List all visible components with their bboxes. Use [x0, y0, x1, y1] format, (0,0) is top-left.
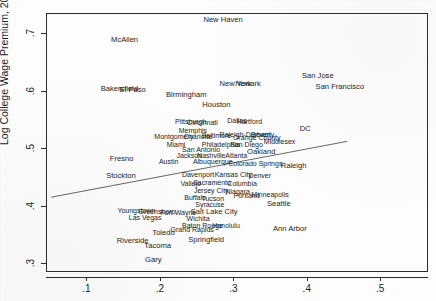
data-point-label: San Jose [302, 73, 334, 81]
x-tick-label: .2 [156, 283, 164, 294]
y-tick-label: .7 [25, 25, 36, 41]
data-point-label: Orange County [233, 134, 280, 141]
data-point-label: Austin [159, 158, 178, 165]
data-point-label: Springfield [188, 236, 224, 244]
data-point-label: Oakland [247, 148, 275, 156]
y-tick-label: .5 [25, 140, 36, 156]
data-point-label: Sacramento [193, 179, 231, 186]
y-tick-label: .6 [25, 83, 36, 99]
data-point-label: Raleigh [281, 162, 307, 170]
x-tick-label: .3 [229, 283, 237, 294]
data-point-label: Las Vegas [129, 213, 162, 220]
data-point-label: Albuquerque [193, 158, 233, 165]
data-point-label: Houston [202, 101, 230, 109]
data-point-label: Hartford [237, 117, 262, 124]
y-tick-label: .3 [25, 255, 36, 271]
x-tick-label: .4 [303, 283, 311, 294]
data-point-label: Birmingham [166, 92, 207, 100]
data-point-label: Ann Arbor [273, 225, 307, 233]
x-tick-label: .1 [82, 283, 90, 294]
figure-page: Log College Wage Premium, 2000 .3.4.5.6.… [0, 0, 436, 301]
data-point-label: DC [300, 125, 311, 133]
x-tick-label: .5 [376, 283, 384, 294]
y-tick-label: .4 [25, 198, 36, 214]
data-point-label: Grand Rapids [171, 226, 214, 233]
data-point-label: Honolulu [212, 222, 240, 229]
data-point-label: El Paso [120, 86, 146, 94]
x-axis-line [46, 277, 428, 278]
data-point-label: Colorado Springs [228, 160, 282, 167]
data-point-label: Kansas City [215, 171, 252, 178]
data-point-label: Davenport [182, 171, 214, 178]
data-point-label: Fresno [110, 155, 134, 163]
data-point-label: Tacoma [144, 242, 171, 250]
data-point-label: McAllen [111, 36, 138, 44]
data-point-label: Toledo [152, 230, 174, 238]
data-point-label: Gary [145, 257, 161, 265]
data-point-label: San Francisco [316, 83, 365, 91]
data-point-label: Stockton [106, 173, 136, 181]
data-point-label: Minneapolis [251, 191, 288, 198]
data-point-label: New Haven [203, 17, 242, 25]
data-point-label: Denver [248, 172, 271, 179]
data-point-label: Seattle [267, 200, 291, 208]
data-point-label: Columbia [227, 179, 257, 186]
data-point-label: Cincinnati [187, 119, 218, 126]
y-axis-title: Log College Wage Premium, 2000 [0, 0, 10, 145]
scatter-plot-area: New HavenMcAllenBakersfieldEl PasoSan Jo… [46, 13, 428, 272]
data-point-label: Newark [235, 80, 261, 88]
